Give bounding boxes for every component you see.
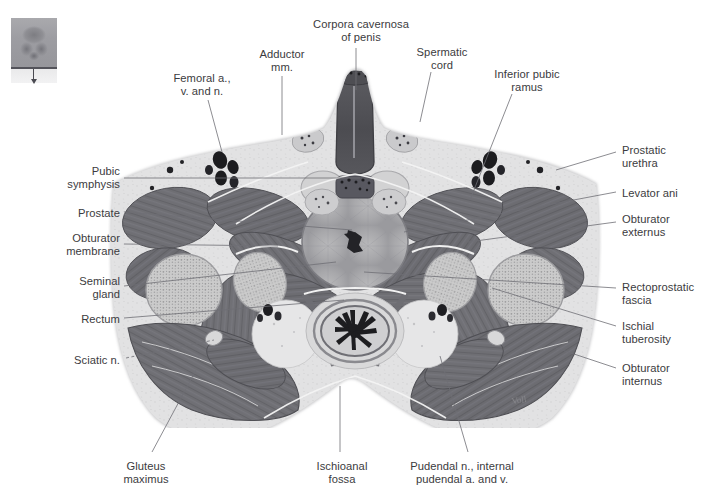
artist-signature: Voll (511, 394, 528, 406)
label-ischial-tuberosity: Ischial tuberosity (622, 320, 706, 346)
label-ischioanal-fossa: Ischioanal fossa (305, 460, 379, 486)
rectum (306, 293, 404, 369)
label-obturator-membrane: Obturator membrane (30, 232, 120, 258)
label-obturator-internus: Obturator internus (622, 362, 706, 388)
orientation-thumbnail (7, 16, 61, 84)
label-rectoprostatic-fascia: Rectoprostatic fascia (622, 281, 707, 307)
label-gluteus-maximus: Gluteus maximus (110, 460, 182, 486)
label-seminal-gland: Seminal gland (38, 275, 120, 301)
label-prostatic-urethra: Prostatic urethra (622, 144, 706, 170)
label-levator-ani: Levator ani (622, 187, 706, 200)
label-adductor-mm: Adductor mm. (248, 48, 316, 74)
label-prostate: Prostate (38, 207, 120, 220)
label-spermatic-cord: Spermatic cord (409, 46, 475, 72)
label-rectum: Rectum (38, 313, 120, 326)
label-inferior-pubic-ramus: Inferior pubic ramus (481, 68, 573, 94)
thumbnail-view-arrow-head (31, 79, 37, 84)
thumbnail-section-line (11, 67, 57, 69)
label-sciatic-n: Sciatic n. (38, 354, 120, 367)
anatomical-section-image: Voll (108, 66, 602, 428)
anatomy-figure-page: Voll Corpora cavernosa of penisAdductor … (0, 0, 707, 504)
label-obturator-externus: Obturator externus (622, 213, 706, 239)
label-pubic-symphysis: Pubic symphysis (38, 165, 120, 191)
label-corpora-cavernosa: Corpora cavernosa of penis (311, 18, 411, 44)
label-femoral-avn: Femoral a., v. and n. (163, 72, 241, 98)
label-pudendal-bundle: Pudendal n., internal pudendal a. and v. (390, 460, 534, 486)
thumbnail-torso (11, 18, 57, 68)
